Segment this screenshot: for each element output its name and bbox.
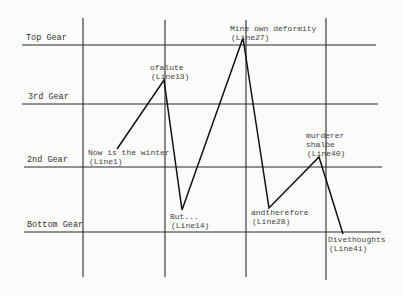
point-label-line: (Line1) [89, 157, 123, 166]
gear-label-top: Top Gear [26, 33, 67, 43]
point-label-line: (Line40) [307, 149, 345, 158]
point-label-line: (Line27) [231, 33, 269, 42]
point-label-text: ofalute [150, 63, 184, 72]
point-label-text: Now is the winter [88, 148, 170, 157]
point-label-line: (Line13) [151, 72, 189, 81]
gear-label-bottom: Bottom Gear [27, 220, 83, 230]
gear-label-2nd: 2nd Gear [27, 155, 68, 165]
point-label-line: (Line41) [329, 244, 367, 253]
gear-label-3rd: 3rd Gear [28, 92, 69, 102]
point-label-text-2: shalbe [306, 140, 335, 149]
point-label-text: andtherefore [251, 208, 309, 217]
gear-diagram: Top Gear 3rd Gear 2nd Gear Bottom Gear N… [0, 0, 403, 296]
point-label-text: Divethoughts [328, 235, 386, 244]
point-label-line: (Line28) [252, 217, 290, 226]
point-label-text: But... [170, 212, 199, 221]
point-label-text: murderer [306, 131, 345, 140]
point-label-line: (Line14) [171, 221, 209, 230]
point-label-text: Mine own deformity [230, 24, 317, 33]
